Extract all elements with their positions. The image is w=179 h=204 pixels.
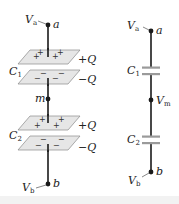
c2-top-charge: +Q	[78, 119, 96, 132]
node-a-dot	[149, 29, 154, 34]
vm-label: Vm	[156, 94, 171, 108]
c1-bottom-charge: −Q	[78, 73, 96, 86]
node-m-label: m	[35, 92, 45, 105]
minus-sign: −	[35, 141, 42, 150]
leader-line-vb	[36, 185, 46, 188]
plus-sign: +	[34, 121, 41, 130]
left-physical-diagram: Va a + + + + +Q C1 − − − − −Q m + + + + …	[9, 13, 96, 195]
vb-label: Vb	[128, 174, 141, 188]
c1-top-plate	[18, 50, 80, 64]
c1-plate-top	[142, 67, 160, 69]
c2-plate-bottom	[142, 142, 160, 144]
plus-sign: +	[37, 48, 44, 57]
minus-sign: −	[58, 69, 65, 78]
footer-band	[0, 196, 179, 204]
c2-label: C2	[127, 133, 140, 147]
minus-sign: −	[34, 74, 41, 83]
minus-sign: −	[53, 141, 60, 150]
node-b-label: b	[53, 177, 60, 190]
va-label: Va	[127, 19, 139, 33]
c1-bottom-plate	[18, 70, 80, 84]
c1-plate-bottom	[142, 73, 160, 75]
c2-plate-top	[142, 136, 160, 138]
plus-sign: +	[57, 48, 64, 57]
node-a-label: a	[53, 18, 60, 31]
right-schematic-diagram: Va a C1 Vm C2 Vb b	[127, 19, 171, 188]
c2-top-plate	[18, 116, 80, 130]
series-capacitor-diagram: Va a + + + + +Q C1 − − − − −Q m + + + + …	[0, 0, 179, 204]
node-m-dot	[46, 97, 51, 102]
leader-line-vb	[142, 173, 149, 177]
plus-sign: +	[53, 121, 60, 130]
node-b-label: b	[156, 165, 163, 178]
node-a-dot	[46, 23, 51, 28]
c2-bottom-plate	[18, 136, 80, 150]
node-a-label: a	[156, 24, 163, 37]
va-label: Va	[25, 13, 37, 27]
c1-label: C1	[9, 65, 22, 79]
leader-line-va	[38, 21, 46, 24]
node-b-dot	[149, 170, 154, 175]
node-b-dot	[46, 182, 51, 187]
vb-label: Vb	[22, 181, 35, 195]
c2-label: C2	[9, 129, 22, 143]
node-m-dot	[149, 98, 154, 103]
c2-bottom-charge: −Q	[78, 141, 96, 154]
c1-label: C1	[127, 64, 140, 78]
minus-sign: −	[52, 74, 59, 83]
leader-line-va	[143, 27, 149, 30]
minus-sign: −	[40, 69, 47, 78]
c1-top-charge: +Q	[78, 53, 96, 66]
